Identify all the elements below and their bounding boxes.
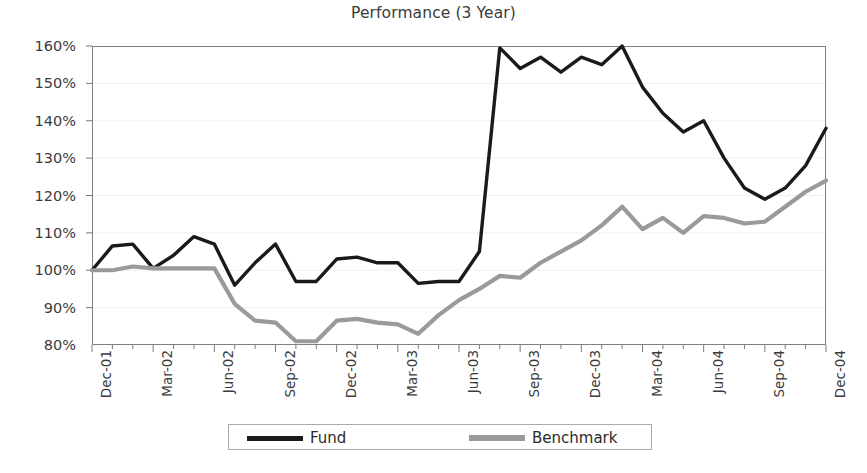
legend-swatch-benchmark-icon — [469, 435, 525, 441]
x-axis-tick-label: Jun-04 — [710, 350, 726, 393]
x-axis-tick-label: Jun-02 — [220, 350, 236, 393]
performance-chart: Performance (3 Year) 80%90%100%110%120%1… — [0, 0, 867, 473]
x-axis-tick-label: Dec-04 — [832, 350, 848, 398]
x-axis-tick-label: Sep-03 — [526, 350, 542, 398]
legend-label: Benchmark — [532, 429, 617, 447]
series-line-fund — [92, 46, 826, 285]
x-axis-labels: Dec-01Mar-02Jun-02Sep-02Dec-02Mar-03Jun-… — [0, 346, 867, 416]
x-axis-tick-label: Jun-03 — [465, 350, 481, 393]
chart-legend: FundBenchmark — [228, 424, 652, 450]
x-axis-tick-label: Dec-03 — [587, 350, 603, 398]
x-axis-tick-label: Mar-02 — [159, 350, 175, 397]
x-axis-tick-label: Mar-03 — [404, 350, 420, 397]
legend-item-benchmark[interactable]: Benchmark — [469, 425, 617, 451]
x-axis-tick-label: Sep-04 — [771, 350, 787, 398]
legend-label: Fund — [310, 429, 346, 447]
x-axis-tick-label: Dec-01 — [98, 350, 114, 398]
series-line-benchmark — [92, 181, 826, 342]
legend-swatch-fund-icon — [247, 436, 303, 441]
x-axis-tick-label: Dec-02 — [343, 350, 359, 398]
x-axis-tick-label: Sep-02 — [282, 350, 298, 398]
x-axis-tick-label: Mar-04 — [649, 350, 665, 397]
legend-item-fund[interactable]: Fund — [247, 425, 346, 451]
